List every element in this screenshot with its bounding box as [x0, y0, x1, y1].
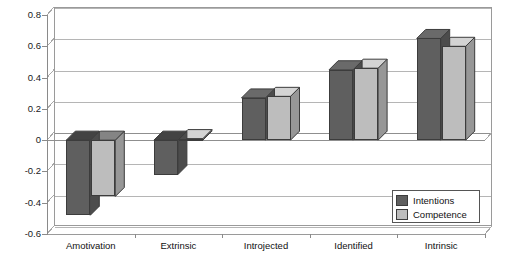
legend: Intentions Competence [392, 190, 480, 223]
x-axis-tick [310, 234, 311, 238]
legend-entry-intentions: Intentions [396, 194, 476, 207]
legend-entry-competence: Competence [396, 208, 476, 221]
legend-swatch-competence [396, 209, 408, 220]
bar-chart: 0.80.60.40.20-0.2-0.4-0.6 AmotivationExt… [0, 0, 511, 268]
x-axis-tick [222, 234, 223, 238]
x-axis-label-amotivation: Amotivation [66, 240, 116, 251]
x-axis-label-introjected: Introjected [244, 240, 288, 251]
x-axis-tick [135, 234, 136, 238]
x-axis-label-extrinsic: Extrinsic [160, 240, 196, 251]
x-axis-label-intrinsic: Intrinsic [425, 240, 458, 251]
legend-label-intentions: Intentions [413, 196, 454, 206]
legend-label-competence: Competence [413, 210, 467, 220]
x-axis-tick [485, 234, 486, 238]
x-axis-tick [397, 234, 398, 238]
legend-swatch-intentions [396, 195, 408, 206]
x-axis-label-identified: Identified [334, 240, 373, 251]
x-axis-labels: AmotivationExtrinsicIntrojectedIdentifie… [0, 0, 511, 268]
